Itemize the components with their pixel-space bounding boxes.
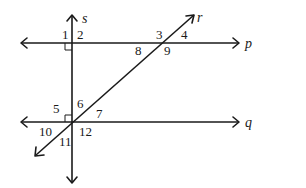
label-r: r (197, 10, 203, 25)
label-q: q (245, 115, 252, 130)
angle-3: 3 (156, 27, 163, 42)
line-p (21, 38, 239, 48)
right-angle-mark-1 (65, 43, 72, 50)
angle-8: 8 (135, 43, 142, 58)
line-s (67, 15, 77, 183)
angle-10: 10 (39, 124, 52, 139)
angle-1: 1 (62, 27, 69, 42)
parallel-lines-diagram: s r p q 1 2 3 4 5 6 7 8 9 10 11 12 (0, 0, 306, 188)
angle-5: 5 (53, 101, 60, 116)
line-q (21, 117, 239, 127)
angle-4: 4 (181, 27, 188, 42)
angle-7: 7 (96, 106, 103, 121)
angle-6: 6 (77, 96, 84, 111)
angle-12: 12 (79, 124, 92, 139)
angle-11: 11 (59, 134, 72, 149)
label-p: p (244, 36, 252, 51)
right-angle-mark-5 (65, 115, 72, 122)
angle-9: 9 (164, 43, 171, 58)
angle-2: 2 (77, 27, 84, 42)
label-s: s (82, 11, 88, 26)
